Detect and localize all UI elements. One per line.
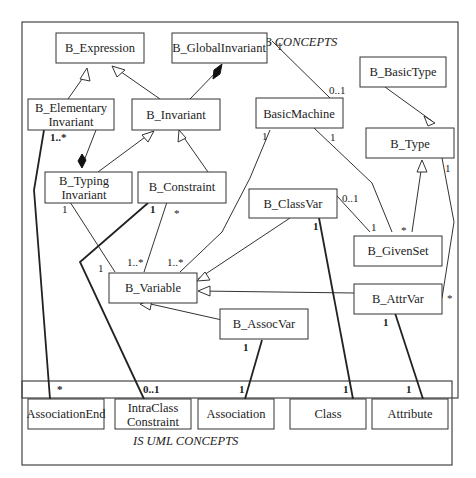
class-b-typinginvariant[interactable]: B_Typing Invariant: [45, 172, 132, 203]
mult-label: 0..1: [329, 84, 346, 96]
mult-label: 1: [330, 131, 336, 143]
mult-label: 1: [62, 203, 68, 215]
generalization-givenset-type: [412, 164, 422, 232]
svg-text:B_GivenSet: B_GivenSet: [367, 244, 429, 258]
mult-label: *: [447, 292, 453, 304]
svg-text:IntraClass: IntraClass: [128, 401, 179, 415]
class-b-givenset[interactable]: B_GivenSet: [354, 236, 442, 266]
mult-label: 1: [150, 203, 156, 215]
generalization-arrowhead: [198, 286, 210, 296]
mult-label: 1: [313, 220, 319, 232]
class-associationend[interactable]: AssociationEnd: [26, 399, 106, 429]
class-b-globalinvariant[interactable]: B_GlobalInvariant: [172, 33, 267, 63]
generalization-arrowhead: [424, 116, 435, 126]
mult-label: 1: [383, 316, 389, 328]
mult-label: 1: [243, 341, 249, 353]
mult-label: 1: [262, 130, 268, 142]
package-uml-concepts-title: IS UML CONCEPTS: [132, 434, 239, 448]
mult-label: 1: [239, 383, 245, 395]
svg-text:Association: Association: [206, 407, 266, 421]
svg-text:Attribute: Attribute: [387, 407, 433, 421]
svg-text:B_Expression: B_Expression: [65, 41, 136, 55]
mult-label: 1..*: [127, 256, 144, 268]
class-b-basictype[interactable]: B_BasicType: [360, 57, 446, 87]
svg-text:BasicMachine: BasicMachine: [263, 107, 335, 121]
trace-classvar-class: [319, 218, 353, 399]
class-class[interactable]: Class: [290, 399, 366, 429]
mult-label: 0..1: [143, 383, 160, 395]
generalization-arrowhead: [417, 160, 427, 172]
trace-elementary-associationend: [34, 130, 50, 399]
class-b-type[interactable]: B_Type: [366, 128, 454, 158]
svg-text:B_ClassVar: B_ClassVar: [263, 197, 323, 211]
class-b-elementaryinvariant[interactable]: B_Elementary Invariant: [28, 99, 114, 130]
svg-text:B_Variable: B_Variable: [125, 281, 182, 295]
class-association[interactable]: Association: [198, 399, 274, 429]
package-b-concepts-title: B CONCEPTS: [264, 35, 338, 49]
generalization-arrowhead: [80, 68, 90, 81]
mult-label: 1: [406, 383, 412, 395]
mult-label: 1: [98, 262, 104, 274]
class-attribute[interactable]: Attribute: [372, 399, 448, 429]
generalization-basictype-type: [385, 87, 432, 121]
svg-text:B_Invariant: B_Invariant: [146, 108, 206, 122]
mult-label: 0..1: [342, 192, 359, 204]
generalization-arrowhead: [178, 130, 186, 142]
class-b-attrvar[interactable]: B_AttrVar: [354, 284, 442, 314]
svg-text:B_Elementary: B_Elementary: [35, 101, 108, 115]
class-basicmachine[interactable]: BasicMachine: [256, 98, 343, 128]
class-intraclassconstraint[interactable]: IntraClass Constraint: [115, 399, 191, 429]
mult-label: 1: [343, 383, 349, 395]
svg-text:B_AssocVar: B_AssocVar: [233, 317, 296, 331]
mult-label: 1..*: [167, 256, 184, 268]
svg-text:B_AttrVar: B_AttrVar: [372, 292, 425, 306]
composition-diamond: [213, 64, 222, 79]
mult-label: 1: [445, 162, 451, 174]
generalization-arrowhead: [112, 66, 125, 77]
association-constraint-variable: [144, 202, 167, 272]
svg-text:AssociationEnd: AssociationEnd: [26, 407, 106, 421]
generalization-arrowhead: [197, 272, 210, 281]
class-b-expression[interactable]: B_Expression: [56, 33, 144, 63]
svg-text:Invariant: Invariant: [48, 115, 94, 129]
svg-text:B_Type: B_Type: [390, 137, 430, 151]
mult-label: 1: [371, 221, 377, 233]
svg-text:Constraint: Constraint: [127, 415, 180, 429]
class-b-invariant[interactable]: B_Invariant: [132, 99, 220, 130]
mult-label: 1: [277, 40, 283, 52]
generalization-assocvar-variable: [146, 303, 222, 320]
class-b-classvar[interactable]: B_ClassVar: [249, 189, 337, 218]
class-b-constraint[interactable]: B_Constraint: [138, 172, 226, 203]
class-b-variable[interactable]: B_Variable: [109, 273, 197, 303]
svg-text:B_BasicType: B_BasicType: [369, 65, 437, 79]
association-type-attrvar: [442, 158, 454, 298]
svg-text:Class: Class: [314, 407, 341, 421]
mult-label: *: [401, 224, 407, 236]
class-b-assocvar[interactable]: B_AssocVar: [220, 309, 308, 339]
mult-label: *: [57, 383, 63, 395]
composition-diamond: [78, 154, 86, 168]
svg-text:B_GlobalInvariant: B_GlobalInvariant: [172, 41, 266, 55]
generalization-classvar-variable: [198, 218, 290, 279]
generalization-typing-invariant: [98, 132, 152, 172]
mult-label: *: [174, 207, 180, 219]
svg-text:B_Constraint: B_Constraint: [149, 180, 216, 194]
generalization-arrowhead: [142, 131, 154, 142]
generalization-attrvar-variable: [200, 291, 354, 293]
uml-diagram: B CONCEPTS IS UML CONCEPTS: [0, 0, 476, 478]
svg-text:Invariant: Invariant: [61, 188, 107, 202]
mult-label: 1..*: [50, 131, 67, 143]
svg-text:B_Typing: B_Typing: [59, 174, 110, 188]
